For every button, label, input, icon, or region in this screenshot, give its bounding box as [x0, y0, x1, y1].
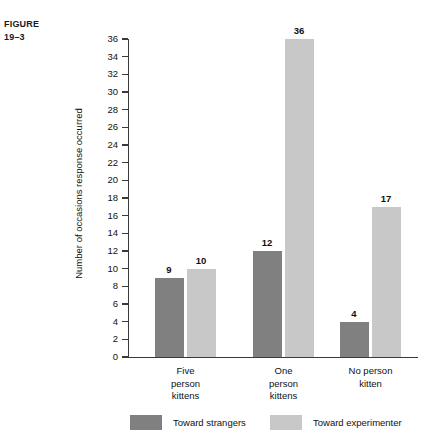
bars-layer: [0, 0, 446, 357]
bar-value-label: 9: [155, 265, 184, 275]
category-label-line: kittens: [238, 390, 330, 403]
bar-value-label: 4: [340, 309, 369, 319]
x-axis-category-label: No personkitten: [325, 365, 417, 390]
bar: [340, 322, 369, 357]
legend-color-swatch: [270, 415, 302, 430]
bar: [285, 39, 314, 357]
category-label-line: kittens: [140, 390, 232, 403]
legend-label: Toward strangers: [173, 417, 246, 428]
bar-value-label: 10: [187, 256, 216, 266]
x-axis-line: [128, 357, 418, 358]
category-label-line: person: [238, 378, 330, 391]
category-label-line: Five: [140, 365, 232, 378]
bar-value-label: 17: [372, 194, 401, 204]
bar: [155, 278, 184, 358]
bar-chart: Number of occasions response occurred 02…: [0, 0, 446, 410]
legend-color-swatch: [130, 415, 162, 430]
x-axis-category-label: Onepersonkittens: [238, 365, 330, 403]
chart-legend: Toward strangersToward experimenter: [0, 414, 446, 434]
bar: [187, 269, 216, 357]
category-label-line: No person: [325, 365, 417, 378]
bar-value-label: 36: [285, 26, 314, 36]
bar-value-label: 12: [253, 238, 282, 248]
legend-label: Toward experimenter: [313, 417, 402, 428]
bar: [253, 251, 282, 357]
x-axis-category-label: Fivepersonkittens: [140, 365, 232, 403]
category-label-line: kitten: [325, 378, 417, 391]
category-label-line: person: [140, 378, 232, 391]
bar: [372, 207, 401, 357]
category-label-line: One: [238, 365, 330, 378]
